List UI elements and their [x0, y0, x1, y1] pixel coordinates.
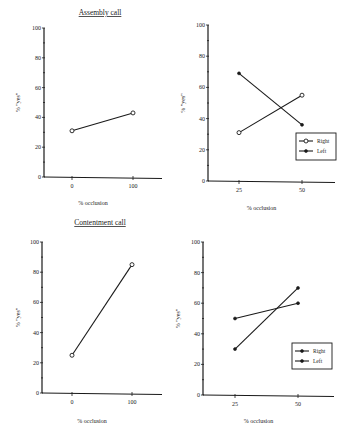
legend-label: Left [313, 358, 323, 364]
y-tick-label: 80 [33, 269, 39, 275]
series-right [234, 286, 300, 350]
y-tick-label: 80 [199, 53, 205, 59]
data-line [72, 113, 133, 131]
data-line [239, 95, 302, 132]
y-tick-label: 40 [199, 116, 205, 122]
x-axis-label: % occlusion [77, 418, 107, 424]
x-axis [42, 393, 162, 395]
data-line [239, 73, 302, 124]
data-point [238, 72, 241, 75]
data-point [70, 353, 74, 357]
y-tick-label: 100 [30, 239, 39, 245]
legend-marker [305, 150, 308, 153]
y-tick-label: 100 [191, 239, 200, 245]
y-tick-label: 20 [35, 144, 41, 150]
data-point [234, 348, 237, 351]
y-tick-label: 20 [194, 361, 200, 367]
data-line [235, 288, 298, 349]
x-tick-label: 50 [299, 187, 305, 193]
y-tick-label: 0 [36, 390, 39, 396]
x-tick-label: 25 [232, 401, 238, 407]
y-tick-label: 100 [32, 25, 41, 31]
y-tick-label: 60 [35, 85, 41, 91]
y-tick-label: 60 [33, 299, 39, 305]
y-tick-label: 40 [35, 114, 41, 120]
legend-label: Right [313, 348, 326, 354]
series-left [234, 302, 300, 320]
x-tick-label: 0 [71, 399, 74, 405]
y-tick-label: 60 [194, 300, 200, 306]
x-axis-label: % occlusion [247, 205, 277, 211]
data-point [70, 129, 74, 133]
chart-contentment-lateral: 0204060801002550% occlusion% "yes"RightL… [175, 239, 334, 424]
y-tick-label: 80 [35, 55, 41, 61]
data-line [235, 303, 298, 318]
x-axis-label: % occlusion [78, 200, 108, 206]
y-tick-label: 0 [197, 392, 200, 398]
chart-assembly-midline: Assembly call0204060801000100% occlusion… [15, 8, 162, 206]
figure-canvas: Assembly call0204060801000100% occlusion… [0, 0, 343, 436]
x-tick-label: 50 [295, 401, 301, 407]
y-axis-label: % "yes" [15, 92, 21, 112]
data-point [237, 131, 241, 135]
x-tick-label: 0 [71, 183, 74, 189]
series-left [238, 72, 304, 126]
y-tick-label: 20 [33, 360, 39, 366]
legend: RightLeft [292, 343, 332, 369]
y-axis-label: % "yes" [15, 307, 21, 327]
y-tick-label: 100 [196, 22, 205, 28]
series-main [70, 263, 134, 358]
chart-title: Assembly call [79, 8, 122, 17]
data-point [130, 263, 134, 267]
y-tick-label: 20 [199, 147, 205, 153]
y-tick-label: 60 [199, 84, 205, 90]
chart-contentment-midline: Contentment call0204060801000100% occlus… [15, 218, 162, 424]
data-point [131, 111, 135, 115]
y-tick-label: 40 [33, 330, 39, 336]
x-axis [208, 181, 335, 183]
legend-marker [304, 139, 308, 143]
y-tick-label: 0 [38, 174, 41, 180]
x-axis [44, 177, 162, 179]
data-point [301, 123, 304, 126]
chart-title: Contentment call [74, 218, 125, 227]
x-axis [203, 395, 334, 397]
data-line [72, 265, 132, 356]
data-point [297, 286, 300, 289]
legend-label: Left [317, 148, 327, 154]
series-main [70, 111, 135, 133]
legend-marker [301, 360, 304, 363]
y-axis-label: % "yes" [175, 308, 181, 328]
legend-marker [301, 350, 304, 353]
y-tick-label: 80 [194, 270, 200, 276]
legend-box [296, 133, 336, 160]
legend: RightLeft [296, 133, 336, 160]
y-tick-label: 0 [202, 178, 205, 184]
y-axis-label: % "yes" [180, 93, 186, 113]
data-point [234, 317, 237, 320]
x-tick-label: 100 [128, 399, 137, 405]
y-tick-label: 40 [194, 331, 200, 337]
legend-box [292, 343, 332, 369]
data-point [297, 302, 300, 305]
x-tick-label: 100 [129, 183, 138, 189]
data-point [300, 93, 304, 97]
chart-assembly-lateral: 0204060801002550% occlusion% "yes"RightL… [180, 22, 336, 211]
legend-label: Right [317, 138, 330, 144]
x-tick-label: 25 [236, 187, 242, 193]
x-axis-label: % occlusion [244, 418, 274, 424]
